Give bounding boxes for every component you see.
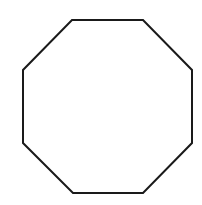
diagram-canvas [0,0,202,205]
octagon-shape [23,20,192,193]
